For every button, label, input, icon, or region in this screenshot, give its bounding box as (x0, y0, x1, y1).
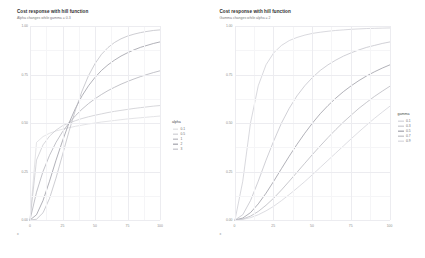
x-tick-label: 0 (234, 224, 236, 228)
x-axis-title: x (17, 232, 19, 236)
legend-item-label: 0.7 (406, 134, 411, 138)
grid-line (235, 75, 390, 76)
y-tick-label: 0.75 (17, 73, 28, 77)
legend-item-label: 1 (181, 137, 183, 141)
figure-canvas: Cost response with hill function Alpha c… (0, 0, 425, 258)
x-tick-label: 100 (157, 224, 163, 228)
x-tick-label: 25 (271, 224, 275, 228)
legend-item-label: 0.1 (406, 119, 411, 123)
x-tick-label: 75 (349, 224, 353, 228)
plot-area (235, 26, 390, 220)
x-tick-label: 75 (126, 224, 130, 228)
panel-subtitle: Gamma changes while alpha = 2 (220, 16, 271, 20)
y-tick-label: 1.00 (222, 24, 233, 28)
y-tick-label: 0.25 (222, 170, 233, 174)
y-tick-label: 1.00 (17, 24, 28, 28)
x-tick-label: 25 (61, 224, 65, 228)
y-tick-label: 0.75 (222, 73, 233, 77)
y-tick-label: 0.50 (222, 121, 233, 125)
grid-line (235, 26, 390, 27)
grid-line (235, 123, 390, 124)
grid-line (160, 26, 161, 220)
grid-line (30, 26, 160, 27)
grid-line (390, 26, 391, 220)
legend-item-label: 0.1 (181, 127, 186, 131)
x-tick-label: 0 (29, 224, 31, 228)
legend-color-key (172, 147, 179, 152)
gamma-panel: Cost response with hill function Gamma c… (213, 0, 425, 258)
legend-item[interactable]: 3 (172, 147, 185, 152)
legend-item-label: 3 (181, 147, 183, 151)
y-tick-label: 0.00 (222, 218, 233, 222)
legend-color-key (398, 139, 405, 144)
x-tick-label: 100 (387, 224, 393, 228)
legend-item-label: 0.3 (406, 124, 411, 128)
grid-line (235, 220, 390, 221)
legend-item-label: 0.9 (406, 139, 411, 143)
x-tick-label: 50 (310, 224, 314, 228)
panel-subtitle: Alpha changes while gamma = 0.3 (17, 16, 71, 20)
y-tick-label: 0.25 (17, 170, 28, 174)
grid-line (30, 220, 160, 221)
plot-area (30, 26, 160, 220)
legend-gamma: gamma 0.10.30.50.70.9 (398, 112, 411, 144)
legend-title: alpha (172, 120, 185, 124)
grid-line (30, 172, 160, 173)
grid-line (30, 123, 160, 124)
legend-item-label: 0.5 (181, 132, 186, 136)
panel-title: Cost response with hill function (220, 9, 291, 14)
grid-line (30, 75, 160, 76)
legend-alpha: alpha 0.10.5123 (172, 120, 185, 152)
legend-item[interactable]: 0.9 (398, 139, 411, 144)
legend-item-list: 0.10.5123 (172, 126, 185, 152)
legend-item-label: 2 (181, 142, 183, 146)
y-tick-label: 0.00 (17, 218, 28, 222)
legend-item-list: 0.10.30.50.70.9 (398, 118, 411, 144)
y-tick-label: 0.50 (17, 121, 28, 125)
x-tick-label: 50 (93, 224, 97, 228)
legend-item-label: 0.5 (406, 129, 411, 133)
grid-line (235, 172, 390, 173)
panel-title: Cost response with hill function (17, 9, 88, 14)
legend-title: gamma (398, 112, 411, 116)
x-axis-title: x (220, 232, 222, 236)
alpha-panel: Cost response with hill function Alpha c… (0, 0, 213, 258)
